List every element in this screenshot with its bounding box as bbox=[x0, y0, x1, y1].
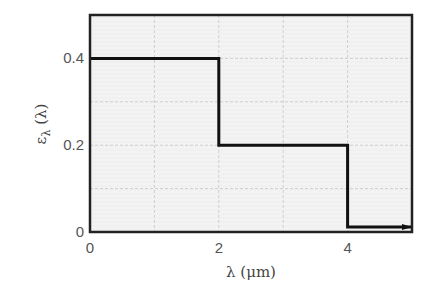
y-axis-label-subscript: λ bbox=[40, 130, 53, 137]
y-tick-0.2: 0.2 bbox=[63, 136, 84, 153]
y-tick-0.4: 0.4 bbox=[63, 49, 84, 66]
y-axis-label: ελ (λ) bbox=[32, 104, 53, 145]
y-tick-0: 0 bbox=[76, 223, 84, 240]
x-tick-2: 2 bbox=[215, 239, 223, 256]
x-axis-label: λ (μm) bbox=[226, 263, 276, 281]
x-tick-labels: 024 bbox=[86, 239, 352, 256]
svg-text:ελ (λ): ελ (λ) bbox=[32, 104, 53, 145]
plot-area bbox=[90, 15, 412, 232]
y-axis-label-argument: (λ) bbox=[32, 104, 50, 130]
x-tick-0: 0 bbox=[86, 239, 94, 256]
emissivity-chart: 024 00.20.4 λ (μm) ελ (λ) bbox=[0, 0, 424, 303]
y-tick-labels: 00.20.4 bbox=[63, 49, 84, 240]
x-tick-4: 4 bbox=[343, 239, 351, 256]
